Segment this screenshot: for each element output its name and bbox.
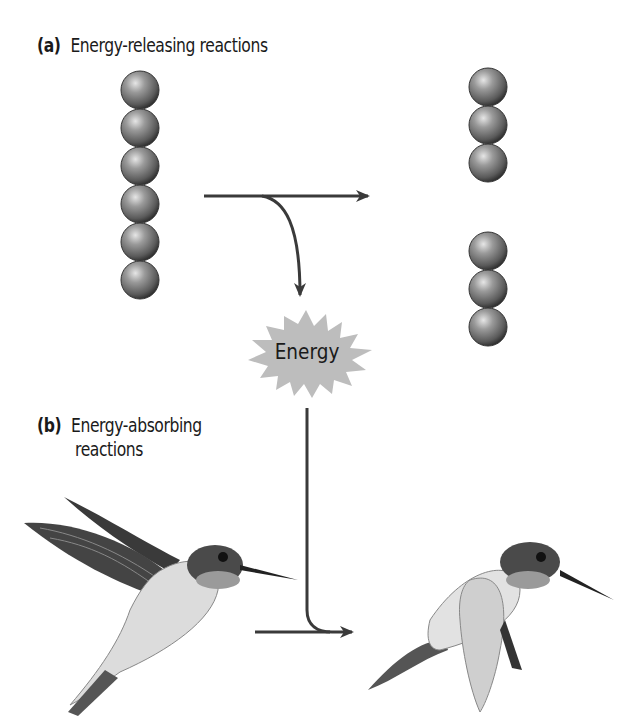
hummingbird-wings-down-image: [368, 542, 614, 712]
panel-b-heading: (b)Energy-absorbing: [37, 413, 202, 437]
panel-b-title-line1: Energy-absorbing: [71, 414, 202, 436]
reactant-molecule-chain: [121, 71, 159, 299]
product-molecule-chain-bottom: [469, 232, 507, 346]
energy-absorb-arrow: [307, 408, 352, 632]
product-molecule-chain-top: [469, 68, 507, 182]
energy-label: Energy: [271, 340, 343, 364]
panel-b-heading-line2: reactions: [75, 437, 143, 461]
panel-b-title-line2: reactions: [75, 438, 143, 460]
hummingbird-wings-up-image: [24, 497, 298, 716]
panel-b-tag: (b): [37, 414, 61, 436]
energy-release-arrow: [262, 196, 300, 295]
